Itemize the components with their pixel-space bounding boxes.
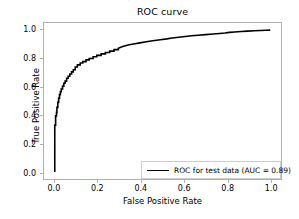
chart-title: ROC curve (43, 6, 282, 17)
x-tick-label: 0.8 (221, 184, 234, 193)
roc-curve-line (44, 23, 281, 179)
legend-line-swatch (147, 170, 169, 171)
x-tick-mark (97, 180, 98, 183)
x-tick-mark (228, 180, 229, 183)
x-tick-label: 1.0 (265, 184, 278, 193)
x-axis-label: False Positive Rate (43, 196, 282, 206)
x-tick-mark (54, 180, 55, 183)
chart-legend: ROC for test data (AUC = 0.89) (141, 161, 281, 179)
x-tick-mark (271, 180, 272, 183)
legend-entry-label: ROC for test data (AUC = 0.89) (174, 166, 291, 175)
x-tick-mark (141, 180, 142, 183)
x-tick-label: 0.0 (47, 184, 60, 193)
y-axis-label: True Positive Rate (31, 27, 41, 185)
x-tick-label: 0.4 (134, 184, 147, 193)
x-tick-label: 0.2 (91, 184, 104, 193)
plot-area (43, 22, 282, 180)
roc-curve-figure: ROC curve 0.00.20.40.60.81.0 0.00.20.40.… (0, 0, 299, 219)
x-tick-label: 0.6 (178, 184, 191, 193)
x-tick-mark (184, 180, 185, 183)
